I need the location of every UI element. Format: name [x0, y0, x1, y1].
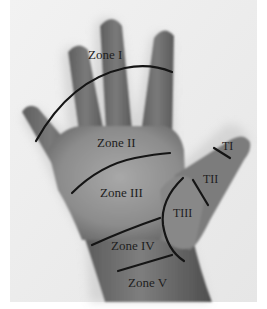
zone-1-label: Zone I: [88, 48, 122, 61]
zone-4-label: Zone IV: [111, 239, 155, 252]
thumb-1-label: TI: [222, 140, 233, 152]
hand-photo: [0, 0, 267, 309]
thumb-2-label: TII: [203, 173, 218, 185]
zone-2-label: Zone II: [97, 136, 136, 149]
zone-3-label: Zone III: [100, 186, 143, 199]
thumb-3-label: TIII: [173, 207, 192, 219]
zone-5-label: Zone V: [128, 276, 167, 289]
